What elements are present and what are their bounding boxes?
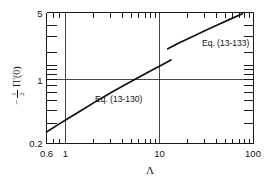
x-tick-label-1: 1	[63, 148, 68, 159]
y-axis-title-function: Π'(0)	[11, 66, 23, 87]
chart-figure: Eq. (13-130) Eq. (13-133) 0.6 1 10 100 5…	[0, 0, 277, 179]
chart-svg: Eq. (13-130) Eq. (13-133) 0.6 1 10 100 5…	[0, 0, 277, 179]
y-tick-label-5: 5	[37, 8, 42, 19]
x-tick-label-100: 100	[245, 148, 261, 159]
y-axis-title-denominator: 2	[18, 92, 25, 95]
y-tick-label-1: 1	[37, 75, 42, 86]
x-axis-title: Λ	[146, 164, 154, 176]
y-axis-title-minus: −	[11, 99, 22, 105]
annotation-eq-13-130: Eq. (13-130)	[95, 94, 142, 104]
x-tick-label-10: 10	[154, 148, 165, 159]
x-tick-label-0.6: 0.6	[40, 148, 53, 159]
annotation-eq-13-133: Eq. (13-133)	[202, 38, 249, 48]
y-tick-label-0.2: 0.2	[29, 138, 42, 149]
y-axis-title-numerator: 1	[10, 92, 17, 95]
